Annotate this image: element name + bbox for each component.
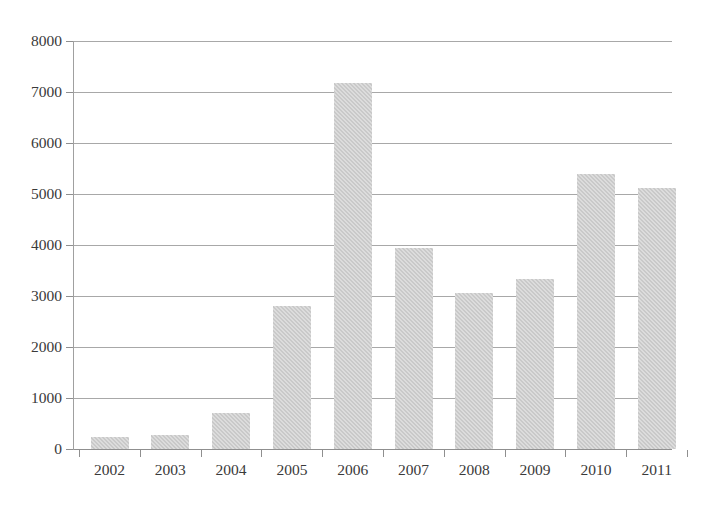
bar-2006 bbox=[334, 83, 372, 449]
y-tick-label-text: 1000 bbox=[31, 389, 62, 406]
y-tick-label-4000: 4000 bbox=[0, 236, 62, 254]
bar-2011 bbox=[638, 188, 676, 449]
bar-2010 bbox=[577, 174, 615, 449]
y-tick-2000 bbox=[66, 347, 73, 348]
x-tick-2007 bbox=[383, 450, 384, 457]
y-tick-label-7000: 7000 bbox=[0, 83, 62, 101]
x-tick-2011 bbox=[626, 450, 627, 457]
bar-2003 bbox=[151, 435, 189, 449]
plot-area bbox=[73, 41, 672, 449]
x-tick-2003 bbox=[140, 450, 141, 457]
y-tick-0 bbox=[66, 449, 73, 450]
x-tick-label-2007: 2007 bbox=[384, 461, 444, 479]
x-tick-2009 bbox=[505, 450, 506, 457]
x-tick-2010 bbox=[565, 450, 566, 457]
x-tick-label-2005: 2005 bbox=[262, 461, 322, 479]
y-tick-label-0: 0 bbox=[0, 440, 62, 458]
y-tick-label-text: 0 bbox=[54, 440, 62, 457]
x-tick-end bbox=[687, 450, 688, 457]
y-tick-label-text: 3000 bbox=[31, 287, 62, 304]
y-tick-label-text: 4000 bbox=[31, 236, 62, 253]
bar-chart: 8000 7000 6000 5000 4000 3000 2000 1000 … bbox=[0, 0, 704, 513]
x-tick-label-2003: 2003 bbox=[140, 461, 200, 479]
x-tick-label-2002: 2002 bbox=[80, 461, 140, 479]
gridline-8000 bbox=[73, 41, 672, 42]
x-tick-2008 bbox=[444, 450, 445, 457]
y-axis-line bbox=[73, 41, 74, 450]
x-tick-label-2009: 2009 bbox=[505, 461, 565, 479]
y-tick-label-1000: 1000 bbox=[0, 389, 62, 407]
bar-2008 bbox=[455, 293, 493, 449]
y-tick-8000 bbox=[66, 41, 73, 42]
y-tick-label-2000: 2000 bbox=[0, 338, 62, 356]
x-tick-2004 bbox=[201, 450, 202, 457]
y-tick-label-text: 6000 bbox=[31, 134, 62, 151]
x-tick-label-2011: 2011 bbox=[627, 461, 687, 479]
y-tick-1000 bbox=[66, 398, 73, 399]
x-tick-2006 bbox=[322, 450, 323, 457]
y-tick-label-6000: 6000 bbox=[0, 134, 62, 152]
x-tick-label-2010: 2010 bbox=[566, 461, 626, 479]
gridline-6000 bbox=[73, 143, 672, 144]
y-tick-label-3000: 3000 bbox=[0, 287, 62, 305]
bar-2009 bbox=[516, 279, 554, 449]
y-tick-label-text: 8000 bbox=[31, 32, 62, 49]
y-tick-7000 bbox=[66, 92, 73, 93]
x-axis-line bbox=[73, 449, 672, 450]
gridline-7000 bbox=[73, 92, 672, 93]
y-tick-4000 bbox=[66, 245, 73, 246]
y-tick-label-text: 7000 bbox=[31, 83, 62, 100]
y-tick-5000 bbox=[66, 194, 73, 195]
bar-2004 bbox=[212, 413, 250, 449]
bar-2002 bbox=[91, 437, 129, 449]
bar-2005 bbox=[273, 306, 311, 449]
y-tick-label-8000: 8000 bbox=[0, 32, 62, 50]
x-tick-label-2006: 2006 bbox=[323, 461, 383, 479]
bar-2007 bbox=[395, 248, 433, 449]
x-tick-2002 bbox=[79, 450, 80, 457]
y-tick-6000 bbox=[66, 143, 73, 144]
x-tick-label-2008: 2008 bbox=[444, 461, 504, 479]
y-tick-label-text: 2000 bbox=[31, 338, 62, 355]
y-tick-label-5000: 5000 bbox=[0, 185, 62, 203]
y-tick-3000 bbox=[66, 296, 73, 297]
y-tick-label-text: 5000 bbox=[31, 185, 62, 202]
x-tick-label-2004: 2004 bbox=[201, 461, 261, 479]
x-tick-2005 bbox=[261, 450, 262, 457]
